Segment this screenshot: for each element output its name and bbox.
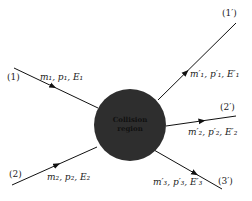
particle-label: m′₁, p′₁, E′₁ [190, 69, 239, 79]
particle-id: (2) [9, 169, 22, 179]
trajectory-line [166, 116, 236, 126]
particle-id: (1′) [222, 8, 237, 18]
region-label-line1: Collision [113, 115, 148, 124]
collision-diagram: (1) m₁, p₁, E₁ (2) m₂, p₂, E₂ (1′) m′₁, … [0, 0, 252, 201]
outgoing-particle-3prime: (3′) m′₃, p′₃, E′₃ [153, 150, 233, 189]
particle-id: (1) [7, 72, 20, 82]
incoming-particle-2: (2) m₂, p₂, E₂ [9, 147, 97, 185]
collision-region: Collision region [94, 89, 166, 161]
particle-label: m₁, p₁, E₁ [40, 72, 83, 82]
incoming-particle-1: (1) m₁, p₁, E₁ [7, 68, 98, 108]
particle-id: (3′) [218, 176, 233, 186]
particle-id: (2′) [220, 102, 235, 112]
particle-label: m′₂, p′₂, E′₂ [188, 127, 238, 137]
particle-label: m′₃, p′₃, E′₃ [153, 177, 203, 187]
trajectory-line [158, 23, 236, 100]
outgoing-particle-1prime: (1′) m′₁, p′₁, E′₁ [158, 8, 239, 100]
outgoing-particle-2prime: (2′) m′₂, p′₂, E′₂ [166, 102, 238, 137]
particle-label: m₂, p₂, E₂ [47, 172, 91, 182]
region-label-line2: region [117, 124, 142, 133]
